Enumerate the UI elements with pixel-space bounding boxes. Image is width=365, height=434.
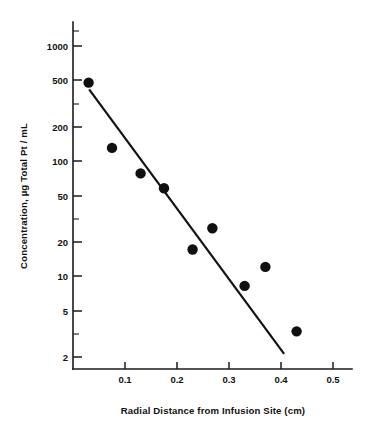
y-tick-label: 100 <box>52 156 68 167</box>
data-point[interactable] <box>159 183 169 193</box>
y-tick-label: 10 <box>57 271 68 282</box>
data-point[interactable] <box>239 281 249 291</box>
scatter-plot-svg: 1000 500 200 100 50 20 10 5 2 0.1 0.2 0.… <box>0 0 365 434</box>
y-tick-label: 1000 <box>47 41 68 52</box>
data-point[interactable] <box>207 223 217 233</box>
x-tick-label: 0.4 <box>274 374 288 385</box>
x-axis-title: Radial Distance from Infusion Site (cm) <box>121 405 305 416</box>
data-point[interactable] <box>260 262 270 272</box>
y-tick-label: 500 <box>52 75 68 86</box>
y-tick-label: 20 <box>57 237 68 248</box>
x-tick-label: 0.5 <box>326 374 340 385</box>
y-tick-label: 5 <box>63 306 69 317</box>
data-point[interactable] <box>107 143 117 153</box>
x-tick-label: 0.2 <box>170 374 183 385</box>
y-axis-title: Concentration, µg Total Pt / mL <box>18 123 29 269</box>
x-tick-label: 0.3 <box>222 374 235 385</box>
y-tick-label: 200 <box>52 122 68 133</box>
data-point[interactable] <box>187 244 197 254</box>
data-point[interactable] <box>135 168 145 178</box>
y-tick-label: 50 <box>57 191 68 202</box>
data-point[interactable] <box>291 326 301 336</box>
x-tick-label: 0.1 <box>118 374 132 385</box>
data-point[interactable] <box>83 77 93 87</box>
chart-figure: 1000 500 200 100 50 20 10 5 2 0.1 0.2 0.… <box>0 0 365 434</box>
y-tick-label: 2 <box>63 352 68 363</box>
